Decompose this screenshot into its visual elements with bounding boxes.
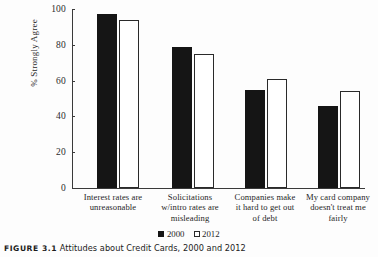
legend-label-2000: 2000 (167, 229, 185, 239)
x-category-line: Companies make (225, 192, 305, 202)
x-category-label-3: My card company doesn't treat me fairly (299, 192, 377, 223)
bar-2012-2 (267, 79, 287, 188)
bar-2012-3 (340, 91, 360, 188)
bar-2000-3 (318, 106, 338, 188)
y-tick-mark (72, 9, 75, 10)
x-category-label-0: Interest rates are unreasonable (73, 192, 153, 213)
y-tick-mark (72, 81, 75, 82)
filled-square-icon (158, 231, 164, 237)
x-category-line: Interest rates are (73, 192, 153, 202)
x-category-line: doesn't treat me (299, 202, 377, 212)
y-tick-label-100: 100 (36, 5, 66, 15)
x-category-label-1: Solicitations w/intro rates are misleadi… (150, 192, 230, 223)
legend-item-2012[interactable]: 2012 (194, 229, 220, 239)
y-tick-mark (72, 45, 75, 46)
chart-legend: 2000 2012 (0, 229, 378, 239)
bar-2000-0 (97, 14, 117, 188)
y-tick-label-60: 60 (36, 77, 66, 87)
x-category-line: fairly (299, 213, 377, 223)
x-category-line: of debt (225, 213, 305, 223)
y-tick-mark (72, 152, 75, 153)
x-category-line: w/intro rates are (150, 202, 230, 212)
x-category-line: unreasonable (73, 202, 153, 212)
figure-caption-text: Attitudes about Credit Cards, 2000 and 2… (60, 243, 246, 253)
x-axis-spine (72, 188, 365, 189)
x-category-line: misleading (150, 213, 230, 223)
x-category-line: My card company (299, 192, 377, 202)
y-tick-label-0: 0 (36, 184, 66, 194)
bar-2012-0 (119, 20, 139, 188)
x-category-line: Solicitations (150, 192, 230, 202)
figure-caption: FIGURE 3.1 Attitudes about Credit Cards,… (4, 243, 374, 254)
y-tick-mark (72, 116, 75, 117)
legend-item-2000[interactable]: 2000 (158, 229, 184, 239)
plot-area (73, 9, 365, 188)
open-square-icon (194, 231, 200, 237)
bar-2000-1 (172, 47, 192, 188)
y-tick-mark (72, 188, 75, 189)
y-tick-label-40: 40 (36, 112, 66, 122)
bar-2000-2 (245, 90, 265, 188)
x-category-label-2: Companies make it hard to get out of deb… (225, 192, 305, 223)
y-axis-title: % Strongly Agree (29, 0, 39, 113)
figure-container: % Strongly Agree 100 80 60 40 20 0 Inter… (0, 0, 378, 257)
y-tick-label-80: 80 (36, 41, 66, 51)
figure-caption-label: FIGURE 3.1 (4, 244, 57, 253)
legend-label-2012: 2012 (202, 229, 220, 239)
x-category-line: it hard to get out (225, 202, 305, 212)
bar-2012-1 (194, 54, 214, 188)
y-tick-label-20: 20 (36, 148, 66, 158)
